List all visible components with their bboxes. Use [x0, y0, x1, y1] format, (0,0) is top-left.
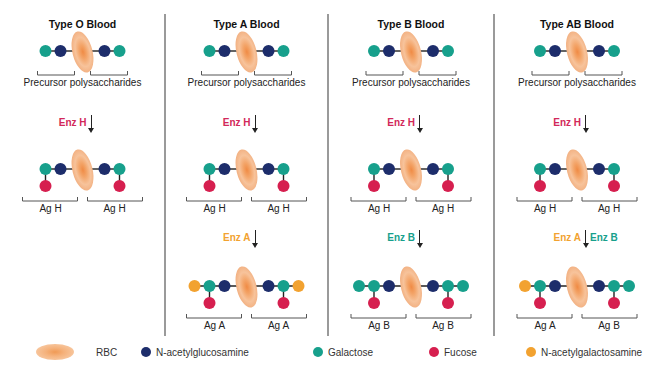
enzyme-label-enz-a: Enz A: [554, 232, 581, 243]
fucose-icon: [278, 180, 290, 192]
enzyme-label-enz-h: Enz H: [223, 117, 251, 128]
legend-item-fucose: Fucose: [429, 341, 477, 363]
rbc-icon: [232, 147, 262, 193]
bracket: [517, 314, 572, 318]
galactose-icon: [534, 45, 546, 57]
panel-title: Type O Blood: [0, 18, 165, 30]
molecule-chain: [166, 272, 327, 332]
fucose-dot-icon: [429, 347, 439, 357]
antigen-label: Ag H: [432, 203, 454, 214]
molecule-chain: [495, 155, 659, 215]
bracket: [187, 314, 242, 318]
bracket: [351, 314, 406, 318]
bracket: [252, 314, 307, 318]
n-acetylglucosamine-icon: [549, 280, 561, 292]
fucose-icon: [534, 297, 546, 309]
bracket: [88, 197, 143, 201]
arrow-down-icon: [255, 230, 256, 244]
rbc-icon: [232, 264, 262, 310]
panel-title: Type A Blood: [166, 18, 327, 30]
n-acetylglucosamine-icon: [219, 163, 231, 175]
n-acetylglucosamine-icon: [99, 45, 111, 57]
galactose-icon: [608, 163, 620, 175]
precursor-label: Precursor polysaccharides: [188, 77, 306, 88]
panel-title: Type AB Blood: [495, 18, 659, 30]
galactose-icon: [204, 163, 216, 175]
n-acetylglucosamine-icon: [55, 163, 67, 175]
molecule-chain: [329, 155, 493, 215]
n-acetylglucosamine-icon: [383, 280, 395, 292]
n-acetylglucosamine-icon: [99, 163, 111, 175]
bracket: [255, 71, 292, 75]
rbc-icon: [68, 147, 98, 193]
antigen-label: Ag A: [204, 320, 225, 331]
bracket: [91, 71, 128, 75]
n-acetylglucosamine-icon: [549, 45, 561, 57]
fucose-icon: [368, 180, 380, 192]
arrow-down-icon: [419, 230, 420, 244]
n-acetylgalactosamine-icon: [293, 280, 305, 292]
n-acetylglucosamine-icon: [383, 163, 395, 175]
panel-title: Type B Blood: [329, 18, 493, 30]
enzyme-label-enz-b: Enz B: [590, 232, 618, 243]
panel-type-a: Type A Blood Precursor polysaccharidesEn…: [166, 0, 327, 335]
arrow-down-icon: [255, 115, 256, 129]
bracket: [351, 197, 406, 201]
galactose-icon: [623, 280, 635, 292]
galactose-icon: [40, 163, 52, 175]
enzyme-label-enz-b: Enz B: [387, 232, 415, 243]
legend-label: RBC: [96, 347, 117, 358]
galactose-icon: [608, 280, 620, 292]
bracket: [585, 71, 622, 75]
galactose-icon: [204, 280, 216, 292]
molecule-chain: [166, 155, 327, 215]
legend-label: N-acetylglucosamine: [156, 347, 249, 358]
arrow-down-icon: [419, 115, 420, 129]
panel-type-o: Type O Blood Precursor polysaccharidesEn…: [0, 0, 165, 335]
precursor-label: Precursor polysaccharides: [518, 77, 636, 88]
bracket: [582, 314, 637, 318]
n-acetylglucosamine-icon: [427, 45, 439, 57]
galactose-icon: [114, 45, 126, 57]
legend-item-n-acetylglucosamine: N-acetylglucosamine: [141, 341, 249, 363]
rbc-icon: [562, 147, 592, 193]
molecule-chain: [166, 37, 327, 97]
fucose-icon: [442, 297, 454, 309]
fucose-icon: [40, 180, 52, 192]
galactose-icon: [368, 45, 380, 57]
n-acetylglucosamine-icon: [427, 163, 439, 175]
antigen-label: Ag B: [432, 320, 454, 331]
galactose-icon: [442, 45, 454, 57]
molecule-chain: [495, 37, 659, 97]
n-acetylglucosamine-dot-icon: [141, 347, 151, 357]
galactose-icon: [114, 163, 126, 175]
bracket: [366, 71, 403, 75]
n-acetylglucosamine-icon: [593, 280, 605, 292]
fucose-icon: [608, 180, 620, 192]
legend-label: Fucose: [444, 347, 477, 358]
galactose-icon: [278, 163, 290, 175]
precursor-label: Precursor polysaccharides: [352, 77, 470, 88]
bracket: [38, 71, 75, 75]
fucose-icon: [368, 297, 380, 309]
enzyme-label-enz-h: Enz H: [59, 117, 87, 128]
bracket: [517, 197, 572, 201]
galactose-icon: [442, 280, 454, 292]
legend-item-n-acetylgalactosamine: N-acetylgalactosamine: [526, 341, 642, 363]
n-acetylglucosamine-icon: [593, 163, 605, 175]
antigen-label: Ag H: [267, 203, 289, 214]
galactose-icon: [534, 163, 546, 175]
precursor-label: Precursor polysaccharides: [24, 77, 142, 88]
fucose-icon: [114, 180, 126, 192]
galactose-icon: [442, 163, 454, 175]
bracket: [419, 71, 456, 75]
arrow-down-icon: [585, 115, 586, 129]
galactose-icon: [368, 163, 380, 175]
fucose-icon: [608, 297, 620, 309]
antigen-label: Ag B: [368, 320, 390, 331]
rbc-icon: [396, 147, 426, 193]
galactose-dot-icon: [313, 347, 323, 357]
rbc-icon: [232, 29, 262, 75]
antigen-label: Ag H: [103, 203, 125, 214]
bracket: [252, 197, 307, 201]
